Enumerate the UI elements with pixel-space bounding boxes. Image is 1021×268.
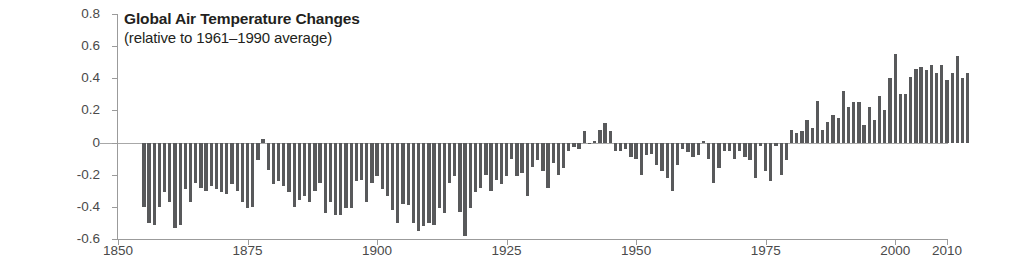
x-tick-label: 1950 bbox=[621, 244, 651, 258]
bar bbox=[795, 133, 798, 143]
bar bbox=[479, 143, 482, 188]
bar bbox=[873, 120, 876, 143]
bar bbox=[199, 143, 202, 188]
bar bbox=[707, 143, 710, 159]
bar bbox=[728, 143, 731, 151]
bar bbox=[717, 143, 720, 169]
bar bbox=[966, 73, 969, 142]
bar bbox=[935, 73, 938, 142]
bar bbox=[215, 143, 218, 190]
y-tick-label: 0.8 bbox=[60, 7, 100, 21]
bar bbox=[790, 130, 793, 143]
bar bbox=[697, 143, 700, 156]
bar bbox=[189, 143, 192, 202]
bar bbox=[650, 143, 653, 154]
bar bbox=[350, 143, 353, 209]
bar bbox=[329, 143, 332, 202]
bar bbox=[634, 143, 637, 159]
bar bbox=[142, 143, 145, 207]
y-tick-mark bbox=[112, 14, 118, 15]
bar bbox=[956, 56, 959, 143]
x-tick-label: 1925 bbox=[492, 244, 522, 258]
bar bbox=[940, 65, 943, 142]
bar bbox=[557, 143, 560, 175]
bar bbox=[210, 143, 213, 186]
bar bbox=[666, 143, 669, 178]
bar bbox=[743, 143, 746, 157]
bar bbox=[909, 77, 912, 143]
bar bbox=[158, 143, 161, 207]
bar bbox=[407, 143, 410, 206]
bar bbox=[754, 143, 757, 178]
bar bbox=[230, 143, 233, 185]
bar bbox=[381, 143, 384, 190]
bar bbox=[847, 107, 850, 142]
bar bbox=[930, 65, 933, 142]
bar bbox=[334, 143, 337, 215]
bar bbox=[179, 143, 182, 225]
bar bbox=[453, 143, 456, 177]
bar bbox=[671, 143, 674, 191]
bar bbox=[681, 143, 684, 149]
bar bbox=[904, 94, 907, 142]
bar bbox=[375, 143, 378, 177]
bar bbox=[153, 143, 156, 225]
bar bbox=[816, 101, 819, 143]
bar bbox=[220, 143, 223, 193]
bar bbox=[365, 143, 368, 202]
bar bbox=[925, 70, 928, 142]
bar bbox=[448, 143, 451, 183]
bar bbox=[852, 102, 855, 142]
bar bbox=[355, 143, 358, 182]
bar bbox=[308, 143, 311, 202]
bar bbox=[541, 143, 544, 172]
x-tick-label: 1900 bbox=[362, 244, 392, 258]
bar bbox=[401, 143, 404, 204]
y-tick-label: -0.6 bbox=[60, 232, 100, 246]
bar bbox=[277, 143, 280, 182]
bar bbox=[344, 143, 347, 209]
bar bbox=[184, 143, 187, 190]
x-tick-label: 1875 bbox=[233, 244, 263, 258]
y-tick-mark bbox=[112, 175, 118, 176]
bar bbox=[764, 143, 767, 172]
chart-figure: Temperature anomaly (°C) 0.80.60.40.20-0… bbox=[0, 0, 1021, 268]
bar bbox=[645, 143, 648, 156]
bar bbox=[173, 143, 176, 228]
bar bbox=[432, 143, 435, 225]
bar bbox=[748, 143, 751, 161]
bar bbox=[427, 143, 430, 223]
bar bbox=[370, 143, 373, 183]
bar bbox=[261, 139, 264, 142]
bar bbox=[422, 143, 425, 227]
bar bbox=[888, 78, 891, 142]
bar bbox=[821, 130, 824, 143]
bar bbox=[531, 143, 534, 167]
bar bbox=[780, 143, 783, 175]
bar bbox=[168, 143, 171, 202]
bar bbox=[194, 143, 197, 183]
bar bbox=[489, 143, 492, 191]
bar bbox=[293, 143, 296, 207]
bar bbox=[204, 143, 207, 191]
bar bbox=[593, 141, 596, 143]
bar bbox=[712, 143, 715, 183]
bar bbox=[842, 91, 845, 142]
y-tick-mark bbox=[112, 110, 118, 111]
bar bbox=[536, 143, 539, 161]
bar bbox=[894, 54, 897, 142]
bar bbox=[495, 143, 498, 180]
bar bbox=[267, 143, 270, 170]
bar bbox=[702, 141, 705, 143]
x-tick-label: 2010 bbox=[932, 244, 962, 258]
bar bbox=[520, 143, 523, 174]
bar bbox=[313, 143, 316, 191]
y-tick-mark bbox=[112, 78, 118, 79]
bar bbox=[660, 143, 663, 172]
y-tick-mark bbox=[112, 239, 118, 240]
bar bbox=[629, 143, 632, 157]
bar bbox=[811, 128, 814, 142]
bar bbox=[945, 80, 948, 143]
bar bbox=[691, 143, 694, 157]
y-tick-label: 0.4 bbox=[60, 72, 100, 86]
